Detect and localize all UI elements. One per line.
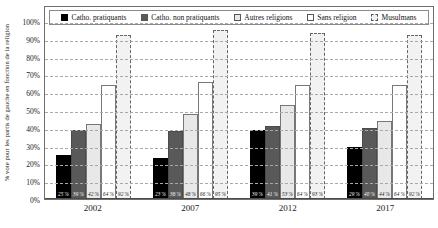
plot-frame: Catho. pratiquantsCatho. non pratiquants… [44,6,434,200]
y-axis-tick-label: 80% [26,53,40,62]
legend-swatch-icon [234,14,241,21]
bar-group: 25 %39 %42 %64 %92 % [45,23,142,199]
y-axis-tick-label: 20% [26,160,40,169]
bar[interactable]: 39 % [71,130,86,199]
y-axis-tick-label: 40% [26,124,40,133]
bar-data-label: 38 % [170,192,181,197]
gridline [45,112,433,113]
x-axis-tick-label: 2007 [142,203,240,223]
gridline [45,59,433,60]
bar-data-label: 66 % [200,192,211,197]
bar[interactable]: 23 % [153,158,168,199]
bar-data-label: 64 % [103,192,114,197]
legend-item[interactable]: Catho. pratiquants [61,13,126,22]
legend-item[interactable]: Sans religion [307,13,356,22]
bar[interactable]: 39 % [250,130,265,199]
bar[interactable]: 64 % [392,85,407,199]
gridline [45,23,433,24]
bar-data-label: 64 % [297,192,308,197]
x-axis-baseline [45,198,433,199]
bar-data-label: 92 % [409,192,420,197]
y-axis-title-text: % vote pour les partis de gauche en fonc… [4,24,11,181]
y-axis-tick-label: 60% [26,89,40,98]
gridline [45,76,433,77]
bar[interactable]: 64 % [101,85,116,199]
bar-data-label: 23 % [155,192,166,197]
y-axis-tick-label: 70% [26,71,40,80]
bar-data-label: 39 % [73,192,84,197]
gridline [45,148,433,149]
y-axis-tick-label: 90% [26,35,40,44]
bar[interactable]: 40 % [362,128,377,199]
bar[interactable]: 44 % [377,121,392,199]
bar-groups: 25 %39 %42 %64 %92 %23 %38 %48 %66 %95 %… [45,23,433,199]
plot-area: 25 %39 %42 %64 %92 %23 %38 %48 %66 %95 %… [45,23,433,199]
y-axis-tick-label: 100% [23,18,41,27]
bar-group: 23 %38 %48 %66 %95 % [142,23,239,199]
legend-label: Catho. pratiquants [71,13,126,22]
legend-label: Sans religion [317,13,356,22]
bar-data-label: 92 % [118,192,129,197]
bar[interactable]: 25 % [56,155,71,200]
bar-data-label: 25 % [58,192,69,197]
legend-swatch-icon [141,14,148,21]
y-axis-tick-label: 50% [26,107,40,116]
bar-data-label: 93 % [312,192,323,197]
bar[interactable]: 48 % [183,114,198,199]
bar-data-label: 42 % [88,192,99,197]
x-axis-tick-label: 2017 [337,203,435,223]
legend-label: Catho. non pratiquants [151,13,219,22]
legend-item[interactable]: Musulmans [371,13,416,22]
y-axis-tick-label: 0% [30,196,40,205]
gridline [45,94,433,95]
bar[interactable]: 41 % [265,126,280,199]
gridline [45,183,433,184]
legend-item[interactable]: Catho. non pratiquants [141,13,219,22]
legend-swatch-icon [371,14,378,21]
bar[interactable]: 42 % [86,124,101,199]
bar-data-label: 41 % [267,192,278,197]
x-axis-tick-labels: 2002200720122017 [44,203,434,223]
bar[interactable]: 92 % [407,35,422,199]
y-axis-tick-label: 30% [26,142,40,151]
bar[interactable]: 66 % [198,82,213,199]
bar-data-label: 95 % [215,192,226,197]
bar-data-label: 29 % [349,192,360,197]
gridline [45,41,433,42]
bar-data-label: 39 % [252,192,263,197]
bar[interactable]: 95 % [213,30,228,199]
legend-swatch-icon [307,14,314,21]
legend-label: Autres religions [244,13,292,22]
bar-group: 29 %40 %44 %64 %92 % [336,23,433,199]
bar[interactable]: 64 % [295,85,310,199]
gridline [45,165,433,166]
y-axis-tick-labels: 100%90%80%70%60%50%40%30%20%10%0% [12,22,42,200]
bar-data-label: 40 % [364,192,375,197]
y-axis-tick-label: 10% [26,178,40,187]
bar[interactable]: 29 % [347,147,362,199]
bar-data-label: 48 % [185,192,196,197]
chart-root: % vote pour les partis de gauche en fonc… [0,0,438,228]
legend-label: Musulmans [381,13,416,22]
legend-swatch-icon [61,14,68,21]
bar-data-label: 53 % [282,192,293,197]
bar-data-label: 64 % [394,192,405,197]
legend-item[interactable]: Autres religions [234,13,292,22]
x-axis-tick-label: 2002 [44,203,142,223]
bar[interactable]: 92 % [116,35,131,199]
bar[interactable]: 53 % [280,105,295,199]
x-axis-tick-label: 2012 [239,203,337,223]
gridline [45,130,433,131]
bar-data-label: 44 % [379,192,390,197]
bar-group: 39 %41 %53 %64 %93 % [239,23,336,199]
